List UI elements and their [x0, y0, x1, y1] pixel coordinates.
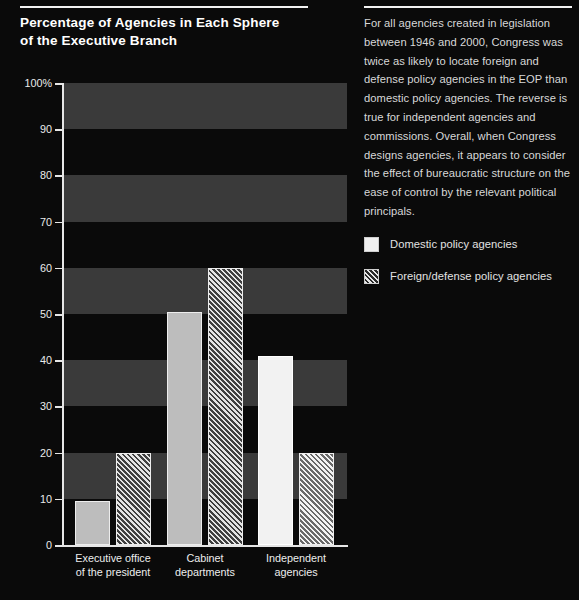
y-axis-tick-label: 50 [6, 308, 52, 320]
y-axis-tick-label: 70 [6, 216, 52, 228]
y-axis-tick [55, 129, 62, 131]
y-axis-tick [55, 453, 62, 455]
y-axis-tick-label: 10 [6, 493, 52, 505]
bar-chart: 100%9080706050403020100 Executive office… [0, 0, 579, 600]
x-axis-label-line-1: Independent [241, 551, 351, 565]
y-axis-tick [55, 360, 62, 362]
bar-domestic-2 [258, 356, 293, 545]
y-axis-tick-label: 0 [6, 539, 52, 551]
y-axis-tick-label: 80 [6, 169, 52, 181]
y-axis-tick [55, 175, 62, 177]
y-axis-tick-label: 60 [6, 262, 52, 274]
grid-band [62, 360, 347, 406]
y-axis-tick [55, 314, 62, 316]
y-axis-line [62, 83, 64, 546]
x-axis-line [62, 545, 348, 547]
x-axis-label-line-2: agencies [241, 565, 351, 579]
bar-domestic-0 [75, 501, 110, 545]
bar-foreign-2 [299, 453, 334, 545]
y-axis-tick-label: 30 [6, 400, 52, 412]
y-axis-tick-label: 20 [6, 447, 52, 459]
grid-band [62, 175, 347, 221]
y-axis-tick-labels: 100%9080706050403020100 [0, 0, 52, 600]
y-axis-tick [55, 222, 62, 224]
bar-domestic-1 [167, 312, 202, 545]
y-axis-tick [55, 268, 62, 270]
x-axis-label-2: Independentagencies [241, 551, 351, 579]
grid-band [62, 83, 347, 129]
y-axis-tick-label: 100% [6, 77, 52, 89]
y-axis-tick [55, 545, 62, 547]
y-axis-tick [55, 499, 62, 501]
grid-band [62, 268, 347, 314]
y-axis-tick [55, 83, 62, 85]
y-axis-tick-label: 90 [6, 123, 52, 135]
y-axis-tick-label: 40 [6, 354, 52, 366]
bar-foreign-1 [208, 268, 243, 545]
bar-foreign-0 [116, 453, 151, 545]
y-axis-tick [55, 406, 62, 408]
